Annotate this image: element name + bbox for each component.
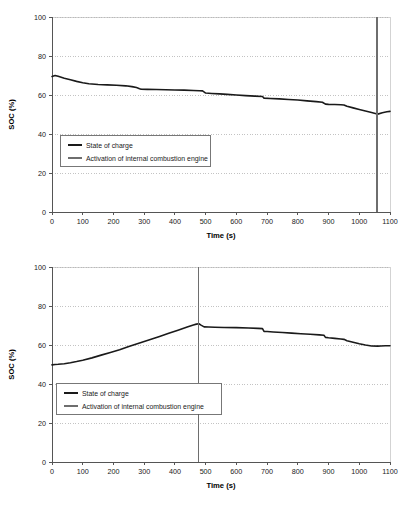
xtick-label-0: 0 [50,217,54,226]
chart-bottom-svg: 0204060801000100200300400500600700800900… [0,255,411,509]
legend-label-state-of-charge: State of charge [82,390,129,398]
xtick-label-800: 800 [292,467,304,476]
soc-profiles-figure: 0204060801000100200300400500600700800900… [0,0,411,509]
xtick-label-500: 500 [200,467,212,476]
ytick-label-40: 40 [38,130,46,139]
legend-label-state-of-charge: State of charge [86,142,133,150]
xtick-label-600: 600 [230,217,242,226]
y-axis-title: SOC (%) [7,99,16,130]
xtick-label-600: 600 [230,467,242,476]
legend-label-activation-ice: Activation of internal combustion engine [82,403,204,411]
xtick-label-1100: 1100 [382,467,397,476]
ytick-label-0: 0 [42,458,46,467]
xtick-label-700: 700 [261,217,273,226]
xtick-label-700: 700 [261,467,273,476]
xtick-label-1000: 1000 [351,217,367,226]
legend-label-activation-ice: Activation of internal combustion engine [86,155,208,163]
xtick-label-300: 300 [138,467,150,476]
ytick-label-80: 80 [38,302,46,311]
xtick-label-200: 200 [107,467,119,476]
x-axis-title: Time (s) [207,481,236,490]
plot-area-border [52,17,390,212]
ytick-label-0: 0 [42,208,46,217]
xtick-label-1100: 1100 [382,217,397,226]
ytick-label-60: 60 [38,341,46,350]
chart-top-container: 0204060801000100200300400500600700800900… [0,0,411,252]
ytick-label-20: 20 [38,169,46,178]
xtick-label-0: 0 [50,467,54,476]
xtick-label-900: 900 [323,467,335,476]
ytick-label-20: 20 [38,419,46,428]
ytick-label-60: 60 [38,91,46,100]
xtick-label-800: 800 [292,217,304,226]
chart-bottom-container: 0204060801000100200300400500600700800900… [0,255,411,509]
ytick-label-100: 100 [34,263,46,272]
xtick-label-400: 400 [169,217,181,226]
xtick-label-100: 100 [77,217,89,226]
chart-top-svg: 0204060801000100200300400500600700800900… [0,0,411,252]
xtick-label-100: 100 [77,467,89,476]
ytick-label-80: 80 [38,52,46,61]
series-state-of-charge-line [52,324,390,365]
ytick-label-100: 100 [34,13,46,22]
xtick-label-400: 400 [169,467,181,476]
x-axis-title: Time (s) [207,231,236,240]
xtick-label-1000: 1000 [351,467,367,476]
ytick-label-40: 40 [38,380,46,389]
plot-area-border [52,267,390,462]
y-axis-title: SOC (%) [7,349,16,380]
xtick-label-500: 500 [200,217,212,226]
xtick-label-300: 300 [138,217,150,226]
xtick-label-900: 900 [323,217,335,226]
xtick-label-200: 200 [107,217,119,226]
